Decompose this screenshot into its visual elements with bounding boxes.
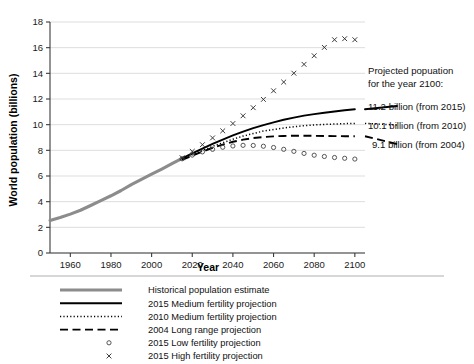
y-axis-title: World population (billions) — [7, 74, 19, 207]
x-axis-title: Year — [197, 261, 219, 273]
y-tick-label: 8 — [38, 145, 43, 156]
callout-value-2015: 11.2 billion (from 2015) — [368, 101, 465, 112]
legend-label: 2010 Medium fertility projection — [148, 312, 277, 322]
legend-label: 2004 Long range projection — [148, 325, 261, 335]
callout-value-2010: 10.1 billion (from 2010) — [368, 120, 466, 131]
x-tick-label: 1980 — [100, 259, 121, 270]
chart-background — [0, 0, 474, 364]
y-tick-label: 2 — [38, 222, 43, 233]
population-projection-chart: 024681012141618 196019802000202020402060… — [0, 0, 474, 364]
legend-label: 2015 Medium fertility projection — [148, 299, 277, 309]
y-tick-label: 6 — [38, 170, 43, 181]
y-tick-label: 12 — [32, 93, 43, 104]
chart-canvas: 024681012141618 196019802000202020402060… — [0, 0, 474, 364]
x-tick-label: 2000 — [141, 259, 162, 270]
x-tick-label: 2060 — [263, 259, 284, 270]
x-tick-label: 2100 — [344, 259, 365, 270]
y-tick-label: 16 — [32, 42, 43, 53]
y-tick-label: 10 — [32, 119, 43, 130]
legend-label: 2015 High fertility projection — [148, 351, 263, 361]
y-tick-label: 4 — [38, 196, 43, 207]
y-tick-label: 18 — [32, 16, 43, 27]
legend-label: Historical population estimate — [148, 285, 269, 295]
y-tick-label: 0 — [38, 247, 43, 258]
callout-heading-line2: for the year 2100: — [368, 78, 443, 89]
x-tick-label: 2080 — [304, 259, 325, 270]
callout-value-2004: 9.1 billion (from 2004) — [372, 139, 465, 150]
x-tick-label: 1960 — [60, 259, 81, 270]
y-tick-label: 14 — [32, 68, 43, 79]
x-tick-label: 2040 — [222, 259, 243, 270]
callout-heading-line1: Projected popuation — [368, 65, 453, 76]
legend-label: 2015 Low fertility projection — [148, 338, 261, 348]
